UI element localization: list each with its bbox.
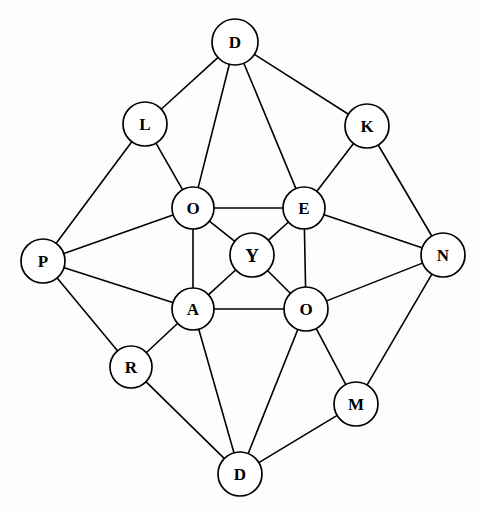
- graph-node-label-p: P: [38, 252, 48, 271]
- graph-edge-y-center-to-o-lower: [267, 270, 291, 294]
- graph-node-o-lower[interactable]: O: [284, 287, 328, 331]
- graph-node-label-o-upper: O: [186, 199, 199, 218]
- graph-edge-p-to-a: [63, 268, 173, 303]
- graph-node-label-e: E: [298, 199, 309, 218]
- graph-node-m[interactable]: M: [334, 382, 378, 426]
- graph-edge-a-to-d-bottom: [199, 329, 234, 454]
- graph-node-y-center[interactable]: Y: [230, 233, 274, 277]
- graph-node-label-n: N: [437, 246, 450, 265]
- graph-node-a[interactable]: A: [172, 288, 214, 330]
- graph-node-r[interactable]: R: [110, 346, 152, 388]
- graph-edge-o-upper-to-p: [63, 215, 173, 254]
- graph-node-k[interactable]: K: [345, 104, 389, 148]
- graph-node-label-y-center: Y: [245, 245, 259, 266]
- graph-edge-n-to-m: [367, 274, 432, 386]
- graph-diagram-canvas: DLKOEPYNAORMD: [0, 0, 482, 513]
- graph-edge-d-top-to-k: [254, 54, 349, 114]
- graph-edge-d-top-to-l: [161, 57, 218, 109]
- graph-node-label-o-lower: O: [299, 300, 312, 319]
- graph-edge-n-to-o-lower: [326, 263, 423, 301]
- graph-edge-k-to-e: [316, 143, 353, 192]
- graph-node-l[interactable]: L: [123, 102, 167, 146]
- graph-node-label-k: K: [360, 117, 374, 136]
- graph-edge-a-to-r: [146, 323, 178, 353]
- graph-node-e[interactable]: E: [283, 187, 325, 229]
- graph-edge-o-upper-to-y-center: [209, 221, 235, 242]
- graph-node-label-r: R: [125, 358, 138, 377]
- graph-edge-l-to-p: [56, 141, 132, 244]
- graph-edge-y-center-to-a: [208, 270, 236, 296]
- graph-node-d-bottom[interactable]: D: [218, 452, 262, 496]
- graph-edge-o-lower-to-m: [316, 328, 346, 385]
- graph-edge-p-to-r: [57, 278, 118, 352]
- graph-node-label-d-top: D: [229, 33, 241, 52]
- node-layer: DLKOEPYNAORMD: [21, 19, 465, 496]
- graph-node-label-l: L: [139, 115, 150, 134]
- graph-edge-r-to-d-bottom: [146, 381, 225, 459]
- graph-edge-m-to-d-bottom: [258, 415, 337, 463]
- graph-node-label-m: M: [348, 395, 364, 414]
- graph-node-n[interactable]: N: [421, 233, 465, 277]
- graph-edge-e-to-n: [323, 215, 422, 249]
- graph-edge-k-to-n: [378, 145, 432, 237]
- graph-node-label-d-bottom: D: [234, 465, 246, 484]
- graph-node-d-top[interactable]: D: [212, 19, 258, 65]
- graph-edge-o-lower-to-d-bottom: [248, 329, 298, 454]
- graph-edge-d-top-to-e: [244, 63, 296, 189]
- graph-edge-e-to-o-lower: [304, 229, 305, 288]
- graph-node-p[interactable]: P: [21, 239, 65, 283]
- graph-node-label-a: A: [187, 300, 200, 319]
- graph-svg: DLKOEPYNAORMD: [0, 0, 482, 513]
- graph-node-o-upper[interactable]: O: [172, 187, 214, 229]
- graph-edge-e-to-y-center: [268, 222, 289, 241]
- graph-edge-d-top-to-o-upper: [198, 64, 229, 188]
- graph-edge-l-to-o-upper: [156, 143, 183, 191]
